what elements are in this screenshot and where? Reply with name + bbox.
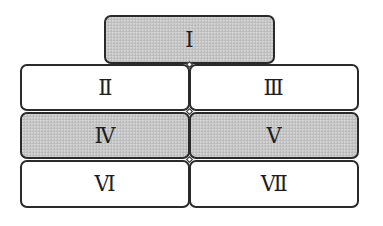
box-vii: Ⅶ: [189, 160, 359, 208]
box-vi-label: Ⅵ: [94, 173, 115, 195]
box-ii: Ⅱ: [20, 64, 190, 111]
box-vii-label: Ⅶ: [261, 173, 288, 195]
box-i: Ⅰ: [104, 15, 275, 64]
box-iii: Ⅲ: [189, 64, 359, 111]
box-v: Ⅴ: [189, 112, 359, 159]
box-v-label: Ⅴ: [266, 125, 281, 147]
box-iv-label: Ⅳ: [95, 125, 116, 147]
box-i-label: Ⅰ: [185, 29, 193, 51]
box-iii-label: Ⅲ: [264, 77, 284, 99]
box-iv: Ⅳ: [20, 112, 190, 159]
box-vi: Ⅵ: [20, 160, 190, 208]
box-ii-label: Ⅱ: [98, 77, 112, 99]
